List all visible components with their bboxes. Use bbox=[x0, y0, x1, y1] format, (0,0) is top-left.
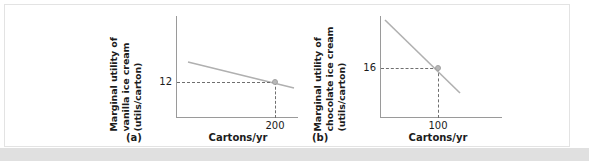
panel-a-caption: (a) bbox=[126, 133, 142, 143]
panel-a-marginal-utility-curve bbox=[176, 16, 298, 118]
panel-b-caption: (b) bbox=[312, 133, 328, 143]
panel-b-y-tick-label: 16 bbox=[352, 63, 376, 73]
panel-a-ylabel-line-1: Marginal utility of bbox=[109, 37, 119, 131]
panel-a-horizontal-guide bbox=[177, 82, 275, 83]
panel-b-x-axis-label: Cartons/yr bbox=[388, 133, 488, 143]
panel-b-ylabel-line-3: (utils/carton) bbox=[337, 62, 347, 131]
panel-b: Marginal utility of chocolate ice cream … bbox=[312, 0, 512, 147]
panel-a-x-tick-label: 200 bbox=[259, 121, 291, 131]
panel-b-equilibrium-point bbox=[435, 65, 441, 71]
figure-page: Marginal utility of vanilla ice cream (u… bbox=[0, 0, 589, 161]
panel-a-y-tick-label: 12 bbox=[148, 77, 172, 87]
panel-b-marginal-utility-curve bbox=[380, 16, 502, 118]
panel-b-plot-area bbox=[380, 16, 502, 118]
panel-b-vertical-guide bbox=[438, 68, 439, 118]
panel-b-ylabel-line-2: chocolate ice cream bbox=[325, 26, 335, 131]
bottom-band bbox=[0, 148, 589, 161]
panel-a: Marginal utility of vanilla ice cream (u… bbox=[108, 0, 308, 147]
panel-b-x-tick-label: 100 bbox=[422, 121, 454, 131]
panel-a-ylabel-line-2: vanilla ice cream bbox=[121, 42, 131, 131]
panel-a-plot-area bbox=[176, 16, 298, 118]
panel-a-x-axis-label: Cartons/yr bbox=[188, 133, 288, 143]
panel-b-ylabel-line-1: Marginal utility of bbox=[313, 37, 323, 131]
panel-a-ylabel-line-3: (utils/carton) bbox=[133, 62, 143, 131]
panel-a-vertical-guide bbox=[275, 82, 276, 118]
panel-a-equilibrium-point bbox=[272, 79, 278, 85]
panel-b-horizontal-guide bbox=[381, 68, 438, 69]
